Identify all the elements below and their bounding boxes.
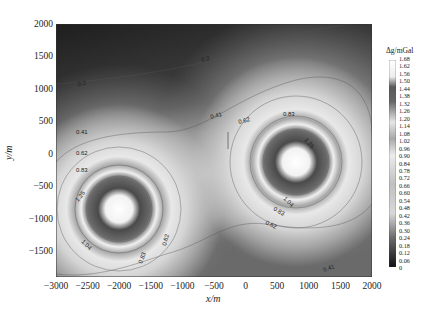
- colorbar-tick-label: 1.02: [399, 137, 410, 144]
- y-tick-label: 500: [3, 116, 53, 126]
- svg-text:0.41: 0.41: [76, 129, 88, 135]
- colorbar-tick-label: 1.14: [399, 122, 410, 129]
- colorbar-tick-label: 0.12: [399, 249, 410, 256]
- colorbar-tick-label: 0.24: [399, 234, 410, 241]
- colorbar-tick-label: 0.66: [399, 182, 410, 189]
- colorbar-tick-label: 0: [399, 264, 402, 271]
- colorbar-tick-label: 0.90: [399, 152, 410, 159]
- colorbar-tick-label: 1.38: [399, 92, 410, 99]
- colorbar-tick-label: 0.96: [399, 145, 410, 152]
- colorbar-tick-label: 1.08: [399, 130, 410, 137]
- y-axis-label: y/m: [3, 146, 14, 160]
- colorbar-tick-label: 0.18: [399, 242, 410, 249]
- y-tick-label: 2000: [3, 19, 53, 29]
- colorbar: [389, 60, 396, 267]
- y-tick-label: −1500: [3, 246, 53, 256]
- colorbar-tick-label: 0.78: [399, 167, 410, 174]
- x-tick-label: 2000: [352, 281, 392, 291]
- colorbar-tick-label: 0.84: [399, 160, 410, 167]
- colorbar-tick-label: 1.68: [399, 55, 410, 62]
- y-tick-label: −1000: [3, 214, 53, 224]
- gravity-anomaly-heatmap: 0.2 0.2 0.41 0.62 0.83 1.25 1.04 0.83 0.…: [56, 24, 372, 277]
- svg-text:0.83: 0.83: [76, 167, 88, 173]
- colorbar-tick-label: 0.36: [399, 219, 410, 226]
- colorbar-tick-label: 0.48: [399, 204, 410, 211]
- y-tick-label: −500: [3, 181, 53, 191]
- svg-text:0.83: 0.83: [283, 111, 295, 117]
- colorbar-tick-label: 1.62: [399, 62, 410, 69]
- colorbar-title: Δg/mGal: [386, 46, 413, 55]
- y-tick-label: 1000: [3, 84, 53, 94]
- colorbar-tick-label: 0.06: [399, 257, 410, 264]
- x-axis-label: x/m: [206, 293, 220, 304]
- colorbar-tick-label: 1.26: [399, 107, 410, 114]
- colorbar-tick-label: 1.32: [399, 100, 410, 107]
- colorbar-tick-label: 0.42: [399, 212, 410, 219]
- colorbar-tick-label: 1.20: [399, 115, 410, 122]
- colorbar-tick-label: 1.50: [399, 77, 410, 84]
- colorbar-tick-label: 1.44: [399, 85, 410, 92]
- colorbar-tick-label: 0.30: [399, 227, 410, 234]
- y-tick-label: 1500: [3, 51, 53, 61]
- colorbar-tick-label: 1.56: [399, 70, 410, 77]
- colorbar-tick-label: 0.72: [399, 174, 410, 181]
- svg-text:0.62: 0.62: [76, 150, 88, 156]
- colorbar-tick-label: 0.54: [399, 197, 410, 204]
- colorbar-tick-label: 0.60: [399, 189, 410, 196]
